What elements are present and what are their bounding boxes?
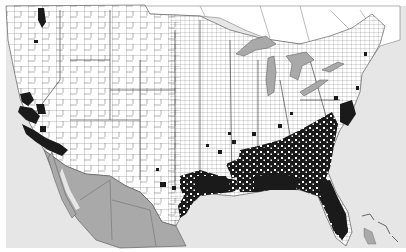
map-canvas xyxy=(0,0,406,252)
bottom-white-margin xyxy=(0,248,406,252)
left-white-margin xyxy=(0,0,6,252)
distribution-map xyxy=(0,0,406,252)
top-white-margin xyxy=(0,0,406,6)
